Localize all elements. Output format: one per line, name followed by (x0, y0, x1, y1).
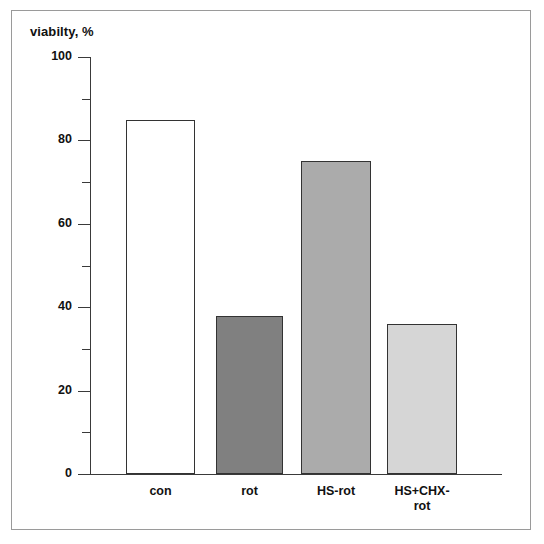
x-tick-label: HS+CHX-rot (367, 484, 477, 514)
x-tick-label-line: HS+CHX- (367, 484, 477, 499)
x-tick-label-line: rot (367, 499, 477, 514)
bar-rot (216, 316, 283, 474)
bar-series (0, 0, 544, 474)
bar-hs-chx-rot (387, 324, 457, 474)
bar-hs-rot (301, 161, 371, 474)
x-axis-line (90, 474, 502, 475)
chart-figure: viabilty, % 020406080100 conrotHS-rotHS+… (0, 0, 544, 544)
bar-con (126, 120, 195, 474)
y-tick-major (78, 474, 90, 475)
